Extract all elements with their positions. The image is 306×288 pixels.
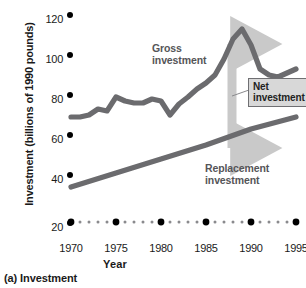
- x-tick-1985: 1985: [186, 243, 226, 254]
- gross-investment-label: Gross investment: [152, 42, 232, 66]
- replacement-investment-label: Replacement investment: [205, 162, 300, 186]
- gross-investment-label-line1: Gross: [152, 42, 232, 54]
- replacement-investment-label-line1: Replacement: [205, 162, 300, 174]
- net-investment-callout-line1: Net: [253, 81, 305, 92]
- x-axis-dotted-line: [68, 219, 300, 226]
- x-tick-1980: 1980: [141, 243, 181, 254]
- x-axis-label: Year: [0, 258, 230, 270]
- x-tick-1970: 1970: [51, 243, 91, 254]
- investment-chart-figure: Investment (billions of 1990 pounds) 120…: [0, 0, 306, 288]
- x-tick-1995: 1995: [276, 243, 306, 254]
- x-tick-1975: 1975: [96, 243, 136, 254]
- x-tick-1990: 1990: [231, 243, 271, 254]
- figure-caption: (a) Investment: [4, 272, 77, 284]
- net-investment-callout-line2: investment: [253, 92, 305, 103]
- net-investment-callout: Net investment: [248, 78, 306, 107]
- gross-investment-label-line2: investment: [152, 54, 232, 66]
- replacement-investment-label-line2: investment: [205, 174, 300, 186]
